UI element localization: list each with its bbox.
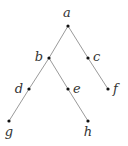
node-d: d [15,81,31,96]
node-label-b: b [35,49,43,64]
tree-nodes: abcdefgh [5,5,120,139]
node-label-d: d [15,81,23,96]
edge-b-e [49,58,68,89]
edge-a-b [49,26,68,58]
node-dot-g [7,119,10,122]
node-c: c [86,49,101,64]
node-label-a: a [63,5,71,20]
node-label-g: g [5,124,13,139]
node-a: a [63,5,71,28]
node-e: e [66,81,81,96]
node-dot-h [86,119,89,122]
node-dot-c [86,56,89,59]
node-dot-b [47,56,50,59]
node-label-e: e [73,81,81,96]
node-label-c: c [93,49,101,64]
node-h: h [84,119,92,139]
node-dot-a [66,24,69,27]
node-dot-f [106,87,109,90]
node-label-f: f [112,81,120,96]
node-b: b [35,49,51,64]
node-label-h: h [84,124,92,139]
node-dot-e [66,87,69,90]
tree-diagram: abcdefgh [0,0,128,146]
node-dot-d [27,87,30,90]
edge-a-c [68,26,88,58]
node-f: f [106,81,120,96]
tree-edges [9,26,108,121]
node-g: g [5,119,13,139]
